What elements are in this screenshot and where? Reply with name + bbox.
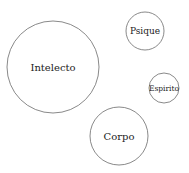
label-intelecto: Intelecto xyxy=(30,62,75,73)
bubble-diagram: Intelecto Psique Espirito Corpo xyxy=(0,0,189,173)
node-intelecto: Intelecto xyxy=(7,21,99,113)
label-psique: Psique xyxy=(130,26,160,36)
node-espirito: Espirito xyxy=(149,73,180,103)
label-corpo: Corpo xyxy=(104,131,135,142)
label-espirito: Espirito xyxy=(149,84,180,93)
node-corpo: Corpo xyxy=(90,107,148,165)
node-psique: Psique xyxy=(126,12,164,50)
